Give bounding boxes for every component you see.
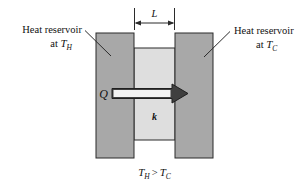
diagram-canvas: L Heat reservoir at TH Heat reservoir at… [0, 0, 308, 182]
hot-reservoir-label-line1: Heat reservoir [22, 24, 82, 35]
thickness-label: L [151, 8, 158, 19]
thermal-conductivity-label: k [152, 111, 157, 122]
heat-flow-label: Q [99, 87, 108, 101]
hot-reservoir-label-line2: at TH [50, 37, 72, 52]
caption-cold-subscript: C [166, 172, 172, 181]
heat-flow-arrow-shaft-interior [114, 90, 171, 97]
cold-temp-subscript: C [272, 44, 278, 53]
cold-reservoir-label-line1: Heat reservoir [234, 25, 294, 36]
heat-conduction-diagram: L Heat reservoir at TH Heat reservoir at… [0, 0, 308, 182]
dimension-arrowhead-right [168, 20, 175, 25]
cold-reservoir-label-line2: at TC [256, 38, 278, 53]
hot-temp-subscript: H [66, 43, 73, 52]
cold-reservoir-at-text: at [256, 39, 266, 50]
caption-hot-subscript: H [143, 172, 150, 181]
hot-reservoir-at-text: at [50, 38, 60, 49]
caption-operator: > [152, 167, 158, 178]
temperature-relation-caption: TH>TC [138, 166, 172, 181]
dimension-arrowhead-left [135, 20, 142, 25]
